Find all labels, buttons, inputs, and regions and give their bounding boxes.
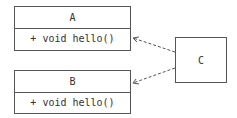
relation-edges — [0, 0, 237, 118]
dependency-c-to-b — [133, 68, 175, 84]
dependency-c-to-a — [133, 37, 175, 52]
